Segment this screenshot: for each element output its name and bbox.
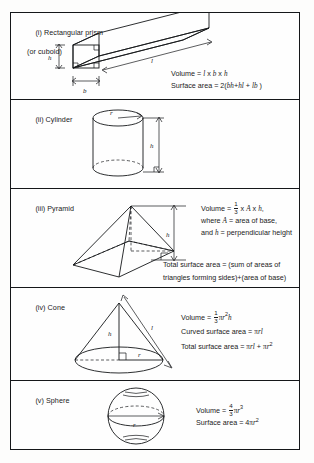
formula-group-cone: Volume = 13πr2h Curved surface area = πr… [181, 310, 272, 354]
formula-total-surface-area-pyramid-line2: triangles forming sides)+(area of base) [163, 272, 286, 285]
dim-label-r: r [138, 351, 141, 359]
section-rectangular-prism: (i) Rectangular prism (or cuboid) [11, 13, 299, 100]
fraction-one-third: 13 [214, 310, 217, 324]
formula-pyramid-note-height: and h = perpendicular height [201, 227, 292, 239]
dim-label-r: r [110, 109, 113, 117]
formula-surface-area-prism: Surface area = 2(bh+hl + lb ) [171, 80, 262, 92]
section-sphere: (v) Sphere r Volume = 43πr3 Surface area… [11, 381, 299, 448]
formula-total-surface-area-pyramid-line1: Total surface area = (sum of areas of [163, 259, 286, 272]
formula-volume-prism: Volume = l x b x h [171, 68, 262, 80]
formula-total-surface-area-cone: Total surface area = πrl + πr2 [181, 340, 272, 355]
section-pyramid: (iii) Pyramid [11, 189, 299, 288]
formula-group-rectangular-prism: Volume = l x b x h Surface area = 2(bh+h… [171, 68, 262, 92]
dim-label-l: l [151, 57, 153, 65]
formula-surface-area-sphere: Surface area = 4πr2 [196, 417, 259, 430]
dim-label-l: l [151, 324, 153, 332]
formula-volume-cone: Volume = 13πr2h [181, 310, 272, 325]
formula-sheet-page: (i) Rectangular prism (or cuboid) [0, 0, 314, 463]
dim-label-r: r [133, 421, 136, 429]
fraction-one-third: 13 [234, 201, 237, 215]
formula-volume-sphere: Volume = 43πr3 [196, 403, 259, 417]
dim-label-h: h [48, 54, 52, 62]
dim-label-b: b [83, 87, 87, 95]
formula-curved-surface-area-cone: Curved surface area = πrl [181, 325, 272, 340]
dim-label-h: h [166, 231, 170, 239]
formula-group-pyramid-volume: Volume = 13 x A x h, where A = area of b… [201, 201, 292, 239]
formula-table: (i) Rectangular prism (or cuboid) [10, 12, 300, 450]
dim-label-h: h [150, 142, 154, 150]
formula-volume-pyramid: Volume = 13 x A x h, [201, 201, 292, 215]
section-cone: (iv) Cone h l r [11, 288, 299, 381]
formula-pyramid-note-base: where A = area of base, [201, 215, 292, 227]
formula-group-sphere: Volume = 43πr3 Surface area = 4πr2 [196, 403, 259, 430]
fraction-four-thirds: 43 [229, 403, 232, 417]
section-cylinder: (ii) Cylinder r h [11, 100, 299, 189]
formula-group-pyramid-surface: Total surface area = (sum of areas of tr… [163, 259, 286, 284]
dim-label-h: h [108, 330, 112, 338]
cylinder-diagram: r h [11, 100, 299, 189]
